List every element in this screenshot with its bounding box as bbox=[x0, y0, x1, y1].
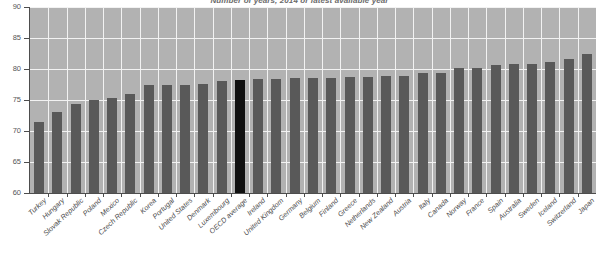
gridline-v-27 bbox=[523, 7, 524, 193]
y-tick-65 bbox=[24, 162, 30, 163]
y-tick-70 bbox=[24, 131, 30, 132]
gridline-v-26 bbox=[505, 7, 506, 193]
bar-czech-republic bbox=[125, 94, 135, 193]
bar-new-zealand bbox=[381, 76, 391, 193]
gridline-v-1 bbox=[48, 7, 49, 193]
gridline-v-21 bbox=[413, 7, 414, 193]
y-tick-label-70: 70 bbox=[0, 127, 21, 135]
bar-canada bbox=[436, 73, 446, 193]
bar-australia bbox=[509, 64, 519, 193]
chart-container: Number of years, 2014 or latest availabl… bbox=[0, 0, 599, 269]
gridline-v-13 bbox=[267, 7, 268, 193]
bar-france bbox=[472, 68, 482, 193]
gridline-v-18 bbox=[359, 7, 360, 193]
gridline-v-14 bbox=[286, 7, 287, 193]
gridline-v-8 bbox=[176, 7, 177, 193]
bar-norway bbox=[454, 68, 464, 193]
gridline-v-3 bbox=[85, 7, 86, 193]
gridline-h-90 bbox=[30, 7, 596, 8]
bar-japan bbox=[582, 54, 592, 194]
x-axis-labels: TurkeyHungarySlovak RepublicPolandMexico… bbox=[0, 196, 599, 269]
gridline-v-6 bbox=[140, 7, 141, 193]
gridline-v-9 bbox=[194, 7, 195, 193]
y-tick-label-90: 90 bbox=[0, 3, 21, 11]
bar-turkey bbox=[34, 122, 44, 193]
bar-switzerland bbox=[564, 59, 574, 193]
bar-greece bbox=[345, 77, 355, 193]
bar-sweden bbox=[527, 64, 537, 193]
bar-oecd-average bbox=[235, 80, 245, 193]
gridline-v-29 bbox=[559, 7, 560, 193]
y-tick-label-65: 65 bbox=[0, 158, 21, 166]
gridline-v-24 bbox=[468, 7, 469, 193]
y-tick-80 bbox=[24, 69, 30, 70]
gridline-v-23 bbox=[450, 7, 451, 193]
gridline-h-85 bbox=[30, 38, 596, 39]
gridline-v-28 bbox=[541, 7, 542, 193]
gridline-v-11 bbox=[231, 7, 232, 193]
gridline-v-30 bbox=[578, 7, 579, 193]
bar-finland bbox=[326, 78, 336, 193]
gridline-v-12 bbox=[249, 7, 250, 193]
gridline-v-25 bbox=[486, 7, 487, 193]
gridline-v-16 bbox=[322, 7, 323, 193]
y-tick-90 bbox=[24, 7, 30, 8]
y-tick-label-80: 80 bbox=[0, 65, 21, 73]
gridline-v-20 bbox=[395, 7, 396, 193]
y-tick-label-75: 75 bbox=[0, 96, 21, 104]
gridline-v-7 bbox=[158, 7, 159, 193]
bar-germany bbox=[290, 78, 300, 193]
y-tick-85 bbox=[24, 38, 30, 39]
gridline-v-19 bbox=[377, 7, 378, 193]
y-tick-75 bbox=[24, 100, 30, 101]
bar-spain bbox=[491, 65, 501, 193]
gridline-v-4 bbox=[103, 7, 104, 193]
gridline-v-17 bbox=[340, 7, 341, 193]
chart-subtitle: Number of years, 2014 or latest availabl… bbox=[0, 0, 599, 5]
gridline-v-2 bbox=[67, 7, 68, 193]
bar-netherlands bbox=[363, 77, 373, 193]
gridline-v-22 bbox=[432, 7, 433, 193]
bar-iceland bbox=[545, 62, 555, 193]
y-tick-label-85: 85 bbox=[0, 34, 21, 42]
gridline-v-10 bbox=[213, 7, 214, 193]
gridline-v-15 bbox=[304, 7, 305, 193]
